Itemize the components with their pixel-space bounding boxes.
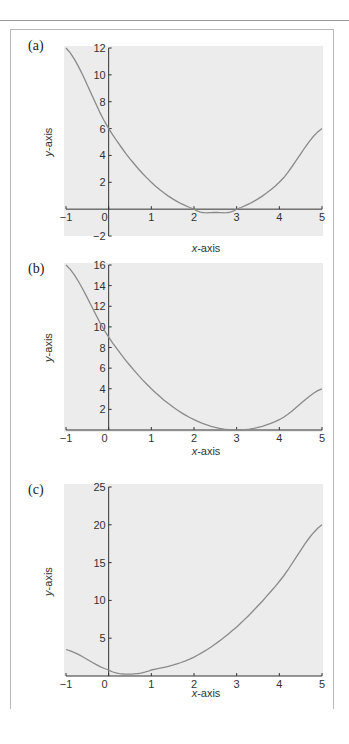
y-axis-title: y-axis [42,567,54,597]
y-tick-label: 10 [93,594,105,606]
y-tick-label: 15 [93,557,105,569]
panel-c: (c) −1012345510152025x-axisy-axis [0,0,349,720]
x-axis-title: x-axis [191,687,221,699]
x-tick-label: 3 [234,678,240,690]
y-tick-label: 5 [100,632,106,644]
chart-c: −1012345510152025x-axisy-axis [0,0,349,720]
x-tick-label: 4 [276,678,282,690]
y-tick-label: 25 [93,481,105,493]
y-tick-label: 20 [93,519,105,531]
x-tick-label: 1 [148,678,154,690]
x-tick-label: 0 [102,678,108,690]
x-tick-label: 5 [319,678,325,690]
plot-area [64,484,323,676]
x-tick-label: −1 [60,678,73,690]
